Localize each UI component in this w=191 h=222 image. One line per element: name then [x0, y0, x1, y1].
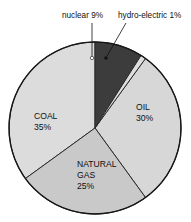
oil-slice-label-name: OIL [136, 102, 150, 112]
pie-chart-figure: nuclear 9% hydro-electric 1% COAL 35% OI… [0, 0, 191, 222]
coal-slice-label-name: COAL [34, 111, 58, 121]
nuclear-leader-dot [90, 56, 93, 59]
hydro-electric-callout-label: hydro-electric 1% [118, 11, 181, 20]
pie-chart-svg: nuclear 9% hydro-electric 1% COAL 35% OI… [0, 0, 191, 222]
coal-slice-label-value: 35% [34, 122, 52, 132]
natural-gas-slice-label-line2: GAS [77, 170, 95, 180]
natural-gas-slice-label-value: 25% [77, 181, 95, 191]
oil-slice-label-value: 30% [136, 113, 154, 123]
natural-gas-slice-label-line1: NATURAL [77, 159, 117, 169]
nuclear-callout-label: nuclear 9% [62, 11, 103, 20]
hydro-electric-leader-dot [104, 56, 107, 59]
callout-labels: nuclear 9% hydro-electric 1% [62, 11, 181, 20]
